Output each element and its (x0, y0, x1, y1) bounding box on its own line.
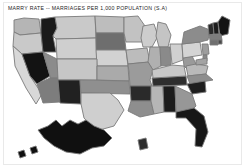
state-IN[interactable] (160, 47, 171, 66)
state-AL[interactable] (163, 86, 176, 112)
state-RI[interactable] (218, 40, 222, 44)
page-title: MARRY RATE -- MARRIAGES PER 1,000 POPULA… (8, 5, 167, 11)
state-WI[interactable] (141, 24, 158, 47)
state-MT[interactable] (53, 16, 96, 39)
state-OH[interactable] (170, 44, 183, 64)
state-KS[interactable] (97, 66, 129, 81)
us-choropleth-map (0, 14, 245, 166)
state-WY[interactable] (56, 38, 97, 59)
state-MD[interactable] (196, 58, 207, 65)
state-IA[interactable] (126, 48, 150, 64)
state-FL[interactable] (176, 108, 208, 147)
state-AR[interactable] (130, 86, 152, 101)
state-ND[interactable] (95, 16, 124, 33)
state-NM[interactable] (58, 80, 81, 104)
us-map-svg (0, 14, 245, 166)
state-MS[interactable] (151, 86, 164, 114)
states-group (13, 16, 230, 158)
state-NE[interactable] (96, 50, 128, 66)
marriage-rate-map-figure: MARRY RATE -- MARRIAGES PER 1,000 POPULA… (0, 0, 245, 168)
state-HI[interactable] (138, 138, 148, 150)
state-NY[interactable] (182, 26, 210, 44)
state-ME[interactable] (218, 16, 230, 36)
state-SD[interactable] (96, 33, 126, 50)
state-MI[interactable] (156, 22, 171, 47)
state-MO[interactable] (128, 62, 153, 86)
state-OK[interactable] (80, 80, 130, 94)
state-LA[interactable] (128, 101, 154, 117)
state-MA[interactable] (209, 34, 222, 40)
state-PA[interactable] (182, 42, 202, 58)
state-NJ[interactable] (202, 44, 209, 55)
state-WA[interactable] (14, 18, 41, 35)
state-CO[interactable] (57, 59, 97, 80)
state-CT[interactable] (210, 40, 218, 45)
